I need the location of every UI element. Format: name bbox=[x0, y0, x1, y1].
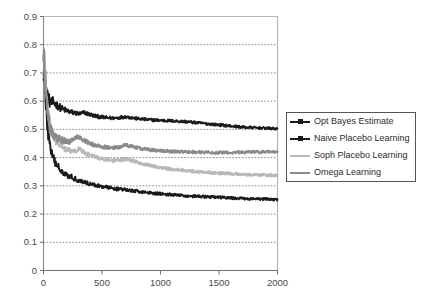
legend-label-opt-bayes-estimate: Opt Bayes Estimate bbox=[310, 117, 394, 126]
legend-item-omega-learning: Omega Learning bbox=[287, 164, 415, 181]
x-tick-label: 500 bbox=[82, 278, 122, 288]
legend-swatch-omega-learning bbox=[290, 167, 310, 179]
legend-swatch-soph-placebo-learning bbox=[290, 150, 310, 162]
chart-legend: Opt Bayes Estimate Naive Placebo Learnin… bbox=[286, 112, 416, 182]
axis-lines bbox=[44, 17, 278, 271]
legend-swatch-naive-placebo-learning bbox=[290, 133, 310, 145]
x-tick-label: 1500 bbox=[199, 278, 239, 288]
legend-item-naive-placebo-learning: Naive Placebo Learning bbox=[287, 130, 415, 147]
y-tick-label: 0 bbox=[3, 266, 37, 276]
series-lines bbox=[44, 50, 278, 201]
y-tick-label: 0.7 bbox=[3, 68, 37, 78]
y-tick-label: 0.9 bbox=[3, 12, 37, 22]
legend-item-soph-placebo-learning: Soph Placebo Learning bbox=[287, 147, 415, 164]
legend-label-soph-placebo-learning: Soph Placebo Learning bbox=[310, 151, 408, 160]
y-tick-label: 0.6 bbox=[3, 96, 37, 106]
chart-container: 00.10.20.30.40.50.60.70.80.9 05001000150… bbox=[0, 0, 422, 306]
y-tick-label: 0.3 bbox=[3, 181, 37, 191]
tick-marks bbox=[40, 17, 278, 275]
legend-label-omega-learning: Omega Learning bbox=[310, 168, 381, 177]
y-tick-label: 0.1 bbox=[3, 237, 37, 247]
x-tick-label: 2000 bbox=[258, 278, 298, 288]
legend-label-naive-placebo-learning: Naive Placebo Learning bbox=[310, 134, 410, 143]
y-tick-label: 0.8 bbox=[3, 40, 37, 50]
x-tick-label: 0 bbox=[24, 278, 64, 288]
gridlines bbox=[44, 17, 278, 243]
y-tick-label: 0.5 bbox=[3, 124, 37, 134]
x-tick-label: 1000 bbox=[141, 278, 181, 288]
y-tick-label: 0.2 bbox=[3, 209, 37, 219]
legend-swatch-opt-bayes-estimate bbox=[290, 116, 310, 128]
legend-item-opt-bayes-estimate: Opt Bayes Estimate bbox=[287, 113, 415, 130]
y-tick-label: 0.4 bbox=[3, 153, 37, 163]
